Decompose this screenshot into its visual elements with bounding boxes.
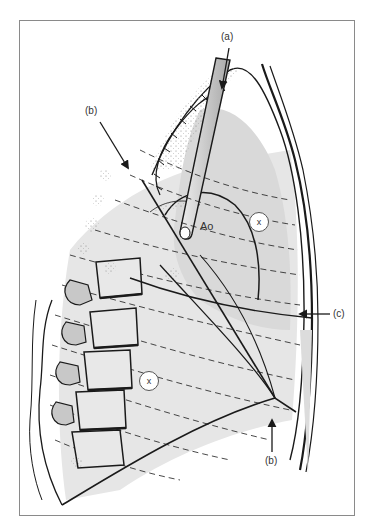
label-a: (a) <box>221 32 233 42</box>
label-aorta: Ao <box>200 220 213 232</box>
label-b-top: (b) <box>85 106 97 116</box>
label-x-lower: x <box>139 371 159 391</box>
label-x-upper: x <box>249 212 269 232</box>
arrow-b-top <box>100 122 128 168</box>
label-c: (c) <box>333 309 345 319</box>
chest-lateral-diagram: (a) (b) (c) (b) Ao x x <box>0 0 365 529</box>
label-b-bottom: (b) <box>265 456 277 466</box>
diagram-artwork <box>0 0 365 529</box>
